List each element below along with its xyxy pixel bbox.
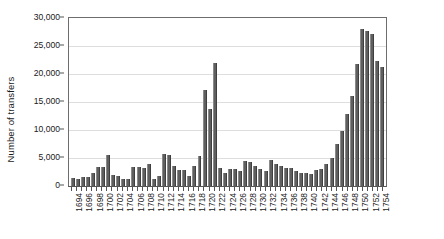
bar <box>162 154 166 186</box>
bar <box>182 170 186 186</box>
x-tick-mark <box>117 186 118 191</box>
bar <box>218 168 222 186</box>
x-tick-mark <box>326 186 327 191</box>
y-tick-label: 30,000 <box>34 12 60 22</box>
x-tick-mark <box>352 186 353 191</box>
bar <box>238 171 242 186</box>
bar <box>91 173 95 186</box>
y-tick-mark <box>60 101 64 102</box>
x-tick-mark <box>280 186 281 191</box>
x-tick-label: 1708 <box>146 193 156 212</box>
x-tick-mark <box>301 186 302 191</box>
x-tick-label: 1694 <box>74 193 84 212</box>
bar <box>81 177 85 186</box>
bar <box>269 160 273 186</box>
x-tick-mark <box>244 186 245 191</box>
x-tick-mark <box>76 186 77 191</box>
x-tick-label: 1748 <box>350 193 360 212</box>
x-tick-mark <box>357 186 358 191</box>
bar <box>375 61 379 186</box>
x-tick-label: 1698 <box>95 193 105 212</box>
x-tick-mark <box>234 186 235 191</box>
bar <box>309 174 313 186</box>
bar <box>365 31 369 186</box>
bar <box>172 166 176 186</box>
x-tick-label: 1710 <box>156 193 166 212</box>
bar <box>192 166 196 186</box>
bar <box>355 64 359 186</box>
x-tick-label: 1744 <box>330 193 340 212</box>
x-tick-mark <box>270 186 271 191</box>
x-tick-mark <box>178 186 179 191</box>
x-tick-mark <box>86 186 87 191</box>
bar <box>330 158 334 186</box>
bar <box>121 179 125 186</box>
bar <box>198 156 202 186</box>
x-tick-label: 1714 <box>176 193 186 212</box>
x-tick-mark <box>173 186 174 191</box>
bar-chart-figure: Number of transfers 05,00010,00015,00020… <box>0 0 444 239</box>
x-tick-label: 1750 <box>360 193 370 212</box>
bar <box>248 162 252 186</box>
bar <box>147 164 151 186</box>
x-tick-mark <box>193 186 194 191</box>
bar <box>253 166 257 186</box>
x-tick-mark <box>168 186 169 191</box>
bar <box>370 34 374 186</box>
x-tick-label: 1740 <box>309 193 319 212</box>
x-tick-mark <box>377 186 378 191</box>
bar <box>289 168 293 186</box>
x-tick-label: 1704 <box>125 193 135 212</box>
x-tick-mark <box>157 186 158 191</box>
y-tick-mark <box>60 17 64 18</box>
x-tick-mark <box>316 186 317 191</box>
x-tick-label: 1700 <box>105 193 115 212</box>
bar <box>264 171 268 186</box>
x-axis-labels: 1694169616981700170217041706170817101712… <box>68 193 385 239</box>
x-tick-mark <box>331 186 332 191</box>
x-tick-mark <box>163 186 164 191</box>
bar <box>324 164 328 186</box>
bar <box>294 171 298 186</box>
x-tick-label: 1720 <box>207 193 217 212</box>
bar <box>137 167 141 186</box>
x-tick-label: 1722 <box>217 193 227 212</box>
bar <box>360 29 364 186</box>
plot-area <box>68 17 387 187</box>
y-tick-mark <box>60 45 64 46</box>
x-tick-mark <box>111 186 112 191</box>
bar <box>106 155 110 186</box>
x-tick-mark <box>306 186 307 191</box>
x-tick-mark <box>219 186 220 191</box>
x-tick-mark <box>122 186 123 191</box>
x-tick-mark <box>81 186 82 191</box>
x-tick-mark <box>362 186 363 191</box>
bar <box>228 169 232 186</box>
x-tick-mark <box>101 186 102 191</box>
bar <box>157 176 161 186</box>
x-tick-mark <box>152 186 153 191</box>
x-tick-mark <box>275 186 276 191</box>
x-tick-mark <box>188 186 189 191</box>
bar <box>380 67 384 186</box>
bar-series <box>69 18 386 186</box>
x-tick-label: 1724 <box>228 193 238 212</box>
bar <box>203 90 207 186</box>
x-tick-mark <box>183 186 184 191</box>
bar <box>208 109 212 186</box>
bar <box>233 169 237 186</box>
y-tick-label: 15,000 <box>34 96 60 106</box>
y-tick-label: 10,000 <box>34 124 60 134</box>
x-tick-label: 1716 <box>187 193 197 212</box>
bar <box>223 173 227 186</box>
x-tick-mark <box>71 186 72 191</box>
bar <box>284 168 288 186</box>
x-tick-mark <box>285 186 286 191</box>
x-tick-mark <box>106 186 107 191</box>
x-tick-label: 1730 <box>258 193 268 212</box>
x-tick-mark <box>367 186 368 191</box>
y-tick-mark <box>60 185 64 186</box>
x-tick-label: 1712 <box>166 193 176 212</box>
bar <box>299 173 303 186</box>
x-tick-mark <box>142 186 143 191</box>
